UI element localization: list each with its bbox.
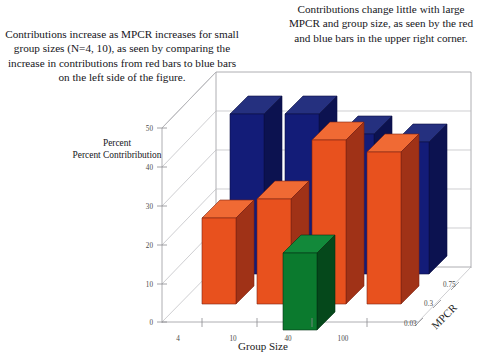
z-tick-003: 0.03 <box>404 320 417 328</box>
x-tick-100: 100 <box>338 335 349 343</box>
y-tick-0: 0 <box>149 319 153 327</box>
y-tick-20: 20 <box>146 242 154 250</box>
x-axis-title: Group Size <box>238 340 288 352</box>
z-tick-03: 0.3 <box>424 300 433 308</box>
y-tick-30: 30 <box>146 203 154 211</box>
bar-chart-3d: 0 10 20 30 40 50 <box>0 0 485 362</box>
bar-g40-mpcr03 <box>283 235 335 330</box>
figure-stage: Contributions increase as MPCR increases… <box>0 0 485 362</box>
bar-g4-mpcr003 <box>202 200 254 304</box>
svg-text:Percent: Percent <box>103 138 132 148</box>
x-tick-4: 4 <box>176 335 180 343</box>
x-axis: 4 10 40 100 Group Size <box>176 318 367 352</box>
y-axis-title-line2: Percent Contribribution <box>73 150 162 160</box>
y-tick-10: 10 <box>146 281 154 289</box>
bar-g100-mpcr003 <box>367 134 419 304</box>
z-tick-075: 0.75 <box>443 281 456 289</box>
y-axis-title: Percent Percent Contribribution <box>73 138 162 160</box>
y-tick-50: 50 <box>146 125 154 133</box>
x-tick-10: 10 <box>229 335 237 343</box>
y-tick-40: 40 <box>146 164 154 172</box>
